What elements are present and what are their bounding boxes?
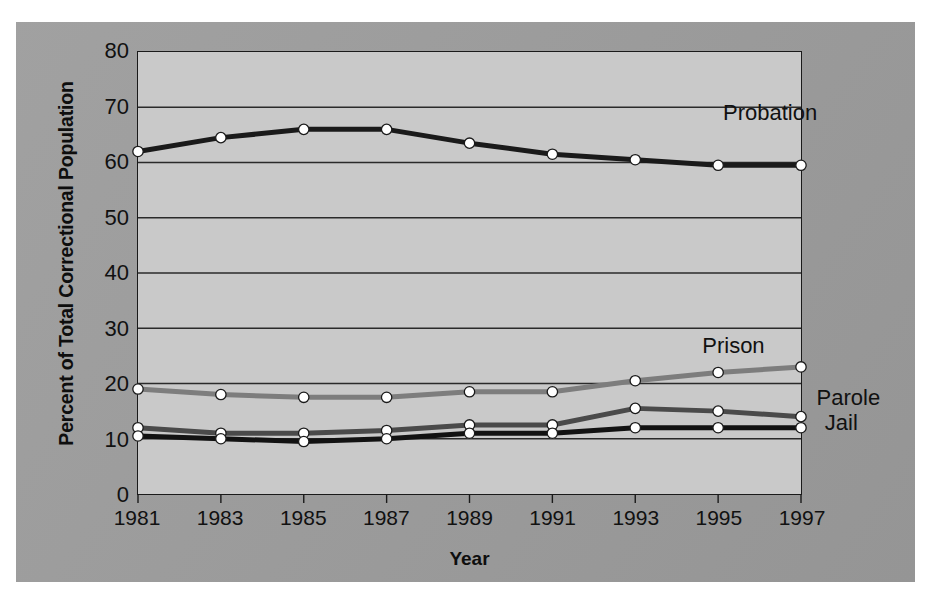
data-series-layer (138, 52, 801, 494)
data-point-probation-1991 (547, 149, 557, 159)
data-point-prison-1995 (713, 367, 723, 377)
chart-panel: Percent of Total Correctional Population… (16, 22, 915, 582)
data-point-probation-1985 (299, 124, 309, 134)
y-axis-tick-label: 50 (105, 205, 129, 231)
data-point-jail-1983 (216, 434, 226, 444)
x-axis-tick-label: 1995 (696, 506, 743, 530)
series-label-prison: Prison (702, 333, 764, 359)
x-axis-tick-label: 1997 (779, 506, 826, 530)
data-point-prison-1983 (216, 389, 226, 399)
data-point-probation-1987 (381, 124, 391, 134)
data-point-probation-1993 (630, 155, 640, 165)
series-label-parole: Parole (817, 385, 881, 411)
data-point-jail-1985 (299, 436, 309, 446)
data-point-probation-1989 (464, 138, 474, 148)
data-point-parole-1997 (796, 411, 806, 421)
data-point-probation-1981 (133, 146, 143, 156)
data-point-prison-1997 (796, 362, 806, 372)
data-point-prison-1981 (133, 384, 143, 394)
plot-area (137, 51, 802, 495)
y-axis-tick-label: 10 (105, 427, 129, 453)
y-axis-tick-label: 40 (105, 260, 129, 286)
y-axis-tick-label: 30 (105, 316, 129, 342)
x-axis-tick-label: 1987 (363, 506, 410, 530)
x-axis-tick-label: 1983 (197, 506, 244, 530)
y-axis-tick-label: 0 (117, 482, 129, 508)
y-axis-tick-label: 80 (105, 38, 129, 64)
data-point-jail-1981 (133, 431, 143, 441)
x-axis-tick-label: 1981 (114, 506, 161, 530)
x-axis-tick-label: 1985 (280, 506, 327, 530)
data-point-parole-1993 (630, 403, 640, 413)
y-axis-tick-label: 20 (105, 371, 129, 397)
data-point-probation-1995 (713, 160, 723, 170)
series-label-probation: Probation (723, 100, 817, 126)
data-point-jail-1993 (630, 423, 640, 433)
x-axis-title: Year (137, 548, 802, 570)
data-point-jail-1997 (796, 423, 806, 433)
y-axis-tick-label: 70 (105, 94, 129, 120)
data-point-prison-1985 (299, 392, 309, 402)
x-axis-tick-labels: 198119831985198719891991199319951997 (137, 506, 802, 536)
y-axis-tick-labels: 01020304050607080 (71, 51, 129, 495)
data-point-prison-1989 (464, 387, 474, 397)
x-axis-tick-label: 1989 (446, 506, 493, 530)
data-point-parole-1995 (713, 406, 723, 416)
data-point-prison-1987 (381, 392, 391, 402)
data-point-probation-1983 (216, 132, 226, 142)
data-point-probation-1997 (796, 160, 806, 170)
y-axis-tick-label: 60 (105, 149, 129, 175)
chart-figure: Percent of Total Correctional Population… (0, 0, 938, 610)
x-axis-tick-label: 1993 (612, 506, 659, 530)
data-point-prison-1991 (547, 387, 557, 397)
series-label-jail: Jail (825, 410, 858, 436)
x-axis-tick-label: 1991 (529, 506, 576, 530)
data-point-jail-1991 (547, 428, 557, 438)
data-point-jail-1989 (464, 428, 474, 438)
data-point-jail-1995 (713, 423, 723, 433)
data-point-jail-1987 (381, 434, 391, 444)
data-point-prison-1993 (630, 376, 640, 386)
